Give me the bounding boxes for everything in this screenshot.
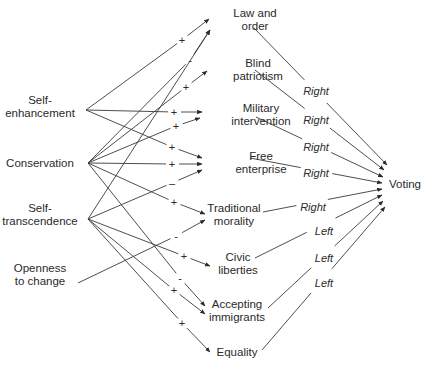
value-node-blind_patriotism: Blindpatriotism [233,57,283,82]
direction-label: Left [315,277,334,289]
source-node-self_enhancement: Self-enhancement [5,94,75,119]
edge-self_transcendence-to-free_enterprise: – [88,170,202,219]
edge-conservation-to-blind_patriotism: + [88,71,207,163]
edge-sign: + [173,120,179,132]
edge-conservation-to-accepting_immigrants: - [88,163,205,306]
direction-label: Right [303,114,330,126]
edge-sign: + [183,81,189,93]
value-node-equality: Equality [217,346,258,358]
edge-conservation-to-traditional_morality: + [88,163,205,214]
edge-conservation-to-free_enterprise: + [88,158,202,170]
edge-self_transcendence-to-civic_liberties: + [88,219,210,266]
edge-sign: + [171,106,177,118]
edge-self_enhancement-to-military_intervention: + [86,106,202,118]
direction-label: Right [303,141,330,153]
edge-traditional_morality-to-voting: Right [263,189,382,213]
edge-sign: - [178,272,182,284]
edge-sign: + [179,34,185,46]
edge-sign: + [179,317,185,329]
labels-layer: Self-enhancementConservationSelf-transce… [2,7,421,358]
value-node-civic_liberties: Civicliberties [218,251,258,276]
direction-label: Right [303,85,330,97]
edge-sign: - [174,230,178,242]
edge-self_transcendence-to-accepting_immigrants: + [88,219,205,314]
source-node-conservation: Conservation [6,157,74,169]
target-node-voting: Voting [389,178,421,190]
edge-sign: + [171,284,177,296]
edge-conservation-to-military_intervention: + [88,118,200,163]
source-node-self_transcendence: Self-transcendence [2,202,77,227]
direction-label: Left [315,252,334,264]
edge-sign: + [181,250,187,262]
edge-sign: – [169,177,176,189]
edge-sign: + [169,158,175,170]
value-node-law_order: Law andorder [233,7,276,32]
source-node-openness: Opennessto change [14,262,67,287]
value-node-free_enterprise: Freeenterprise [235,150,286,175]
edge-conservation-to-law_order: - [88,30,210,163]
edge-sign: + [169,141,175,153]
value-voting-path-diagram: +-+++++–+-+-++RightRightRightRightRightL… [0,0,431,370]
value-node-traditional_morality: Traditionalmorality [207,202,260,227]
direction-label: Left [315,225,334,237]
edge-accepting_immigrants-to-voting: Left [268,201,383,308]
direction-label: Right [300,201,327,213]
edge-sign: + [171,196,177,208]
direction-label: Right [303,167,330,179]
value-node-accepting_immigrants: Acceptingimmigrants [209,298,265,323]
value-node-military_intervention: Militaryintervention [231,102,290,127]
